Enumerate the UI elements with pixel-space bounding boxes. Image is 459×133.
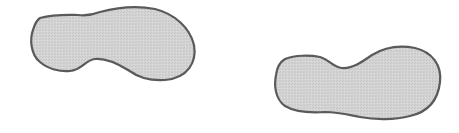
footprint-right-shape	[275, 47, 440, 119]
footprints-illustration	[0, 0, 459, 133]
footprint-left-shape	[31, 7, 194, 80]
